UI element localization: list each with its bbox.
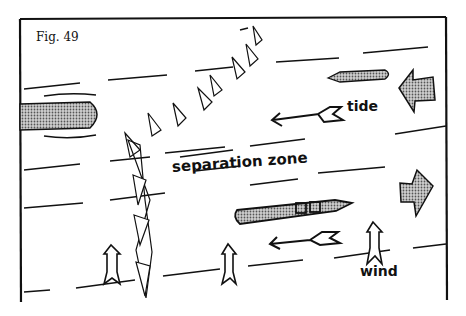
figure-label: Fig. 49 [36,30,79,44]
ship-left [20,94,97,138]
ship-center [235,200,352,224]
tide-arrows [270,107,343,249]
wind-label: wind [360,263,398,279]
ship-right-top [328,70,389,82]
current-arrows [399,70,435,216]
tide-label: tide [347,98,378,114]
